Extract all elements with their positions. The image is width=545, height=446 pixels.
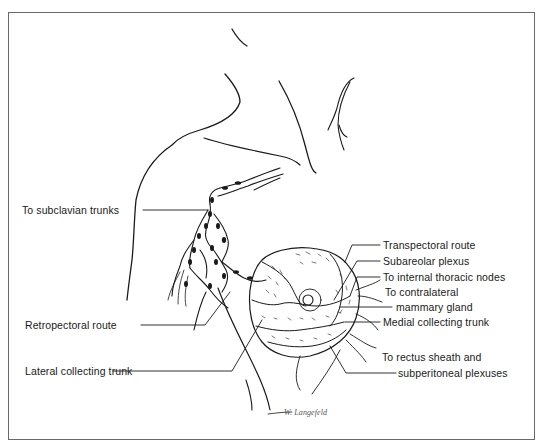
chin-outline bbox=[232, 29, 247, 46]
label-retropectoral-route: Retropectoral route bbox=[25, 319, 117, 331]
lower-lymphatic bbox=[296, 356, 300, 390]
chest-line bbox=[246, 380, 252, 410]
sternocleidomastoid-outline bbox=[279, 81, 316, 173]
label-lateral-collecting-trunk: Lateral collecting trunk bbox=[25, 365, 132, 377]
gland-texture bbox=[262, 252, 350, 341]
label-to-subclavian-trunks: To subclavian trunks bbox=[22, 204, 119, 216]
anatomical-illustration bbox=[0, 0, 545, 446]
label-to-rectus-sheath: To rectus sheath and bbox=[382, 351, 481, 363]
label-to-internal-thoracic-nodes: To internal thoracic nodes bbox=[383, 271, 505, 283]
label-subareolar-plexus: Subareolar plexus bbox=[383, 255, 469, 267]
chest-line bbox=[194, 292, 206, 330]
leader-lines-left bbox=[113, 210, 262, 371]
label-subperitoneal-plexuses: subperitoneal plexuses bbox=[398, 367, 508, 379]
label-transpectoral-route: Transpectoral route bbox=[383, 239, 476, 251]
shoulder-strand bbox=[339, 125, 347, 137]
mammary-gland bbox=[250, 248, 360, 358]
artist-signature: W. Langefeld bbox=[284, 407, 327, 419]
clavicle-outline bbox=[204, 138, 300, 165]
label-medial-collecting-trunk: Medial collecting trunk bbox=[383, 316, 489, 328]
nipple bbox=[303, 295, 313, 305]
areola bbox=[299, 289, 321, 311]
shoulder-strand bbox=[338, 82, 350, 150]
label-to-contralateral: To contralateral bbox=[385, 286, 458, 298]
label-mammary-gland: mammary gland bbox=[396, 301, 473, 313]
pectoral-outline bbox=[218, 288, 270, 410]
